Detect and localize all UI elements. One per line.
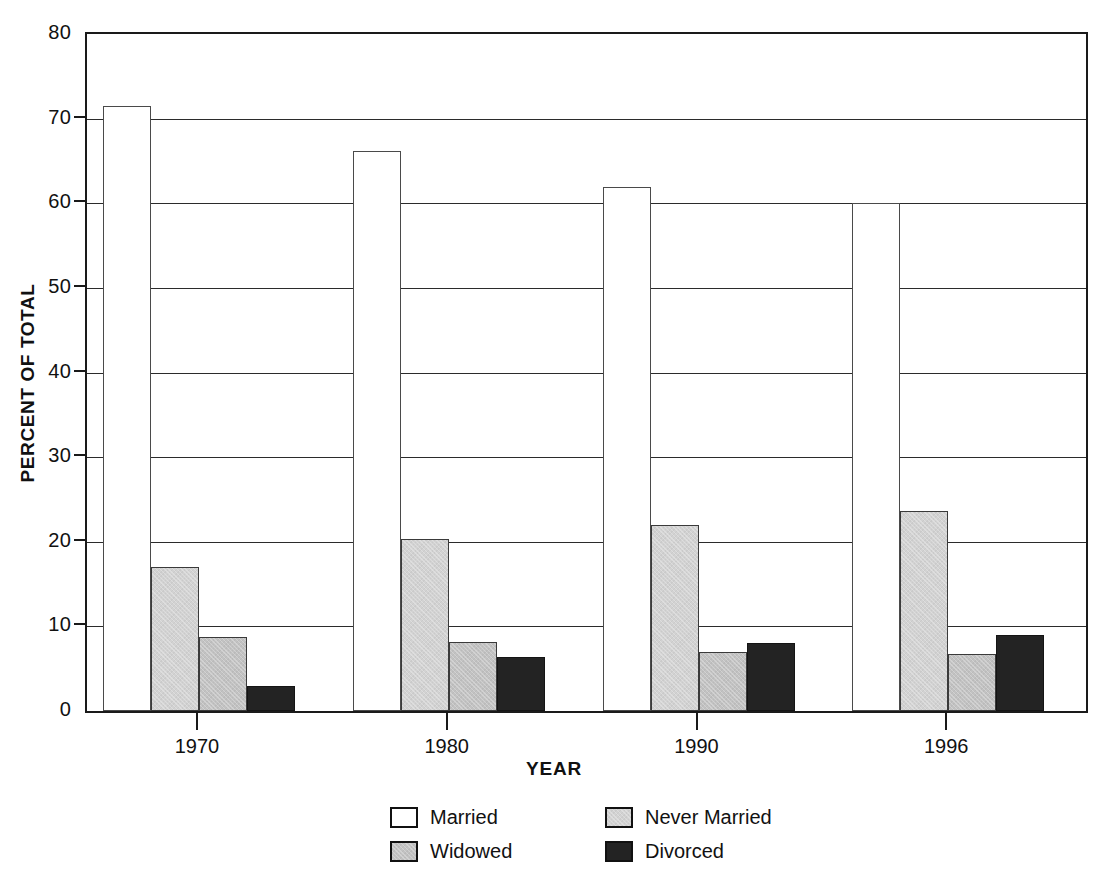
x-axis-tick-label: 1990 (674, 735, 719, 758)
bar-never-married-1996 (900, 511, 948, 711)
y-axis-tick-label: 20 (48, 528, 71, 551)
bar-divorced-1996 (996, 635, 1044, 711)
legend-swatch-divorced (605, 841, 633, 862)
y-axis-title: PERCENT OF TOTAL (17, 123, 39, 643)
gridline (87, 373, 1086, 374)
legend-label: Never Married (645, 806, 772, 829)
legend-label: Widowed (430, 840, 512, 863)
y-axis: 01020304050607080 (0, 0, 85, 884)
y-axis-tick-label: 70 (48, 105, 71, 128)
legend-item-divorced[interactable]: Divorced (605, 840, 820, 863)
legend-item-never-married[interactable]: Never Married (605, 806, 820, 829)
gridline (87, 457, 1086, 458)
x-axis-tick-mark (696, 713, 698, 730)
x-axis-tick-mark (196, 713, 198, 730)
legend-item-married[interactable]: Married (390, 806, 605, 829)
y-axis-tick-label: 60 (48, 190, 71, 213)
bar-never-married-1980 (401, 539, 449, 711)
y-axis-tick-label: 0 (60, 698, 71, 721)
y-axis-tick-mark (74, 623, 85, 625)
bar-never-married-1990 (651, 525, 699, 711)
y-axis-tick-mark (74, 370, 85, 372)
bar-married-1996 (852, 203, 900, 711)
y-axis-tick-label: 30 (48, 444, 71, 467)
bar-texture (700, 653, 746, 710)
y-axis-tick-label: 40 (48, 359, 71, 382)
bar-texture (901, 512, 947, 710)
y-axis-tick-label: 10 (48, 613, 71, 636)
bar-divorced-1970 (247, 686, 295, 711)
bar-married-1990 (603, 187, 651, 711)
x-axis-tick-mark (945, 713, 947, 730)
bar-texture (200, 638, 246, 710)
bar-texture (949, 655, 995, 710)
x-axis-tick-mark (446, 713, 448, 730)
legend: MarriedNever MarriedWidowedDivorced (390, 800, 820, 868)
bar-married-1970 (103, 106, 151, 711)
x-axis-tick-label: 1980 (425, 735, 470, 758)
bar-never-married-1970 (151, 567, 199, 711)
legend-label: Married (430, 806, 498, 829)
x-axis-tick-label: 1996 (924, 735, 969, 758)
bar-texture (152, 568, 198, 710)
x-axis: 1970198019901996 (85, 713, 1088, 793)
legend-swatch-married (390, 807, 418, 828)
gridline (87, 288, 1086, 289)
legend-item-widowed[interactable]: Widowed (390, 840, 605, 863)
gridline (87, 119, 1086, 120)
gridline (87, 203, 1086, 204)
y-axis-tick-label: 80 (48, 21, 71, 44)
legend-label: Divorced (645, 840, 724, 863)
plot-area (85, 32, 1088, 713)
y-axis-tick-mark (74, 454, 85, 456)
legend-swatch-never-married (605, 807, 633, 828)
y-axis-tick-mark (74, 285, 85, 287)
bar-divorced-1990 (747, 643, 795, 711)
bar-married-1980 (353, 151, 401, 711)
bar-widowed-1970 (199, 637, 247, 711)
legend-swatch-texture (607, 809, 631, 826)
bar-divorced-1980 (497, 657, 545, 711)
bar-widowed-1990 (699, 652, 747, 711)
bar-widowed-1980 (449, 642, 497, 711)
y-axis-tick-label: 50 (48, 274, 71, 297)
x-axis-title: YEAR (0, 758, 1108, 780)
bar-texture (450, 643, 496, 710)
bar-texture (402, 540, 448, 710)
chart-page: 01020304050607080 PERCENT OF TOTAL 19701… (0, 0, 1108, 884)
x-axis-tick-label: 1970 (175, 735, 220, 758)
y-axis-tick-mark (74, 200, 85, 202)
y-axis-tick-mark (74, 116, 85, 118)
y-axis-tick-mark (74, 539, 85, 541)
legend-swatch-texture (392, 843, 416, 860)
bar-widowed-1996 (948, 654, 996, 711)
bar-texture (652, 526, 698, 710)
legend-swatch-widowed (390, 841, 418, 862)
